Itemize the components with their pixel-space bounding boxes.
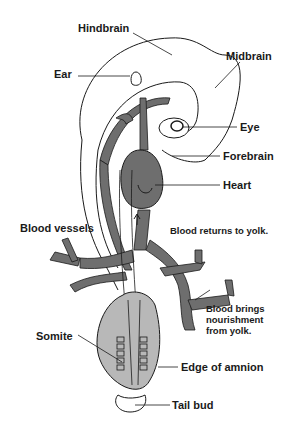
label-ear: Ear xyxy=(54,68,72,80)
ear-shape xyxy=(131,72,141,85)
eye-inner xyxy=(171,121,183,131)
label-hindbrain: Hindbrain xyxy=(78,22,129,34)
label-edge-of-amnion: Edge of amnion xyxy=(181,361,264,373)
label-heart: Heart xyxy=(223,179,251,191)
heart xyxy=(121,150,163,208)
label-eye: Eye xyxy=(240,121,260,133)
label-blood-brings-2: nourishment xyxy=(206,314,264,325)
tail-bud xyxy=(116,395,146,412)
label-blood-vessels: Blood vessels xyxy=(20,222,94,234)
label-blood-brings-3: from yolk. xyxy=(206,325,251,336)
label-blood-brings-1: Blood brings xyxy=(206,303,265,314)
label-blood-returns: Blood returns to yolk. xyxy=(170,225,268,236)
label-tail-bud: Tail bud xyxy=(172,399,213,411)
label-forebrain: Forebrain xyxy=(223,150,274,162)
label-midbrain: Midbrain xyxy=(226,50,272,62)
label-somite: Somite xyxy=(36,330,73,342)
